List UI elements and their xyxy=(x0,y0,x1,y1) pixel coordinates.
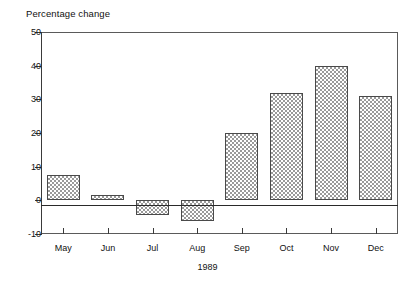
bar-jun xyxy=(91,195,124,200)
y-axis-label: 50 xyxy=(13,27,41,37)
x-axis-label-dec: Dec xyxy=(368,243,384,253)
x-axis-label-sep: Sep xyxy=(234,243,250,253)
x-axis-label-jul: Jul xyxy=(147,243,159,253)
y-axis-label: 10 xyxy=(13,162,41,172)
y-axis-label: -10 xyxy=(13,229,41,239)
bar-dec xyxy=(359,96,392,200)
y-axis-label: 40 xyxy=(13,61,41,71)
x-axis-caption: 1989 xyxy=(0,262,415,272)
bar-sep xyxy=(225,133,258,200)
x-axis-tick xyxy=(376,228,377,234)
bar-oct xyxy=(270,93,303,201)
x-axis-label-oct: Oct xyxy=(279,243,293,253)
x-axis-tick xyxy=(331,228,332,234)
x-axis-tick xyxy=(242,228,243,234)
x-axis-label-may: May xyxy=(55,243,72,253)
x-axis-tick xyxy=(153,228,154,234)
x-axis-label-jun: Jun xyxy=(101,243,116,253)
chart-title: Percentage change xyxy=(26,8,110,19)
bar-may xyxy=(47,175,80,200)
x-axis-label-nov: Nov xyxy=(323,243,339,253)
bar-chart: Percentage change 50403020100-10 MayJunJ… xyxy=(0,0,415,287)
y-axis-label: 0 xyxy=(13,195,41,205)
y-axis-label: 20 xyxy=(13,128,41,138)
bar-nov xyxy=(315,66,348,201)
bar-aug xyxy=(181,200,214,220)
x-axis-tick xyxy=(108,228,109,234)
x-axis-label-aug: Aug xyxy=(189,243,205,253)
zero-baseline xyxy=(41,205,398,206)
x-axis-tick xyxy=(286,228,287,234)
bar-jul xyxy=(136,200,169,215)
y-axis-label: 30 xyxy=(13,94,41,104)
x-axis-tick xyxy=(63,228,64,234)
x-axis-tick xyxy=(197,228,198,234)
